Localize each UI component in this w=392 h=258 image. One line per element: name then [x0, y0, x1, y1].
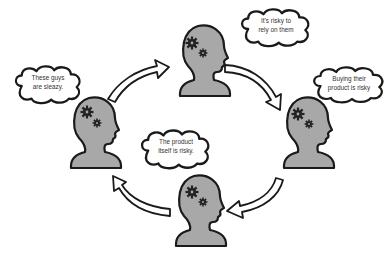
- thought-line: Buying their: [321, 74, 377, 83]
- person-right: [284, 97, 334, 168]
- thought-line: are sleazy.: [23, 82, 74, 91]
- gear-icon: [292, 108, 305, 121]
- arrow-right-to-bottom: [227, 178, 283, 218]
- thought-line: rely on them: [251, 25, 302, 34]
- gear-icon: [305, 120, 314, 129]
- thought-text-right: Buying their product is risky: [321, 74, 377, 92]
- thought-line: It's risky to: [251, 16, 302, 25]
- person-left: [71, 97, 121, 168]
- thought-line: These guys: [23, 73, 74, 82]
- cycle-diagram: [0, 0, 392, 258]
- gear-icon: [186, 186, 199, 199]
- gear-icon: [186, 37, 199, 50]
- thought-line: The product: [149, 137, 203, 146]
- thought-text-top: It's risky to rely on them: [251, 16, 302, 34]
- gear-icon: [199, 198, 208, 207]
- gear-icon: [81, 106, 94, 119]
- gear-icon: [199, 49, 208, 58]
- thought-line: itself is risky.: [149, 146, 203, 155]
- person-bottom: [176, 175, 226, 246]
- arrow-bottom-to-left: [113, 176, 170, 216]
- thought-text-left: These guys are sleazy.: [23, 73, 74, 91]
- arrow-top-to-right: [225, 65, 281, 110]
- person-top: [180, 25, 230, 96]
- thought-text-bottom: The product itself is risky.: [149, 137, 203, 155]
- thought-line: product is risky: [321, 83, 377, 92]
- gear-icon: [93, 119, 102, 128]
- arrow-left-to-top: [108, 60, 169, 102]
